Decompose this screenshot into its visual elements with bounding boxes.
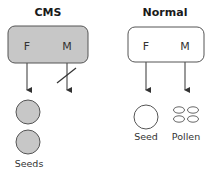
normal-seed [134, 105, 158, 129]
normal-panel: Normal F M Seed Pollen [128, 6, 204, 142]
normal-male-label: M [180, 40, 190, 53]
cms-seed-1 [16, 100, 40, 124]
cms-seed-2 [16, 130, 40, 154]
pollen-grain-2 [188, 107, 199, 113]
cms-vs-normal-diagram: CMS F M Seeds Normal F M Seed Pollen [0, 0, 212, 175]
cms-flower-box [8, 26, 88, 63]
cms-title: CMS [35, 6, 62, 19]
normal-pollen-caption: Pollen [172, 131, 200, 142]
pollen-grain-1 [174, 107, 185, 113]
pollen-grain-3 [174, 116, 185, 122]
normal-seed-caption: Seed [134, 131, 158, 142]
normal-female-label: F [143, 40, 149, 53]
cms-panel: CMS F M Seeds [8, 6, 88, 169]
normal-flower-box [128, 27, 204, 62]
pollen-grains [174, 107, 199, 122]
normal-title: Normal [143, 6, 188, 19]
cms-female-label: F [24, 40, 30, 53]
pollen-grain-4 [188, 116, 199, 122]
cms-male-label: M [62, 40, 72, 53]
cms-seeds-caption: Seeds [15, 158, 44, 169]
